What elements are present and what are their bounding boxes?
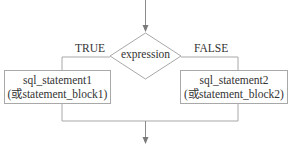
true-statement-line1: sql_statement1 [23,73,92,87]
false-statement-line1: sql_statement2 [200,73,269,87]
false-statement-line2: (或statement_block2) [184,87,284,101]
exit-arrow-icon [143,121,149,144]
true-branch-label: TRUE [75,43,105,55]
false-statement-box: sql_statement2 (或statement_block2) [180,70,288,104]
true-branch-connector [62,57,110,70]
decision-label: expression [117,49,174,61]
true-statement-box: sql_statement1 (或statement_block1) [4,70,111,104]
entry-arrow-icon [143,0,149,32]
if-else-flowchart: expression TRUE FALSE sql_statement1 (或s… [0,0,292,153]
merge-connector [62,103,238,121]
true-statement-line2: (或statement_block1) [8,87,108,101]
false-branch-label: FALSE [194,43,228,55]
false-branch-connector [181,57,238,70]
